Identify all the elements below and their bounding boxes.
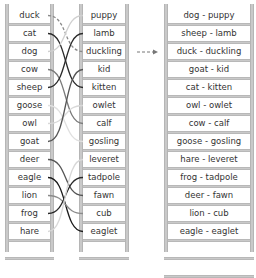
ladder-rung — [79, 257, 129, 260]
link-line — [48, 160, 83, 196]
ladder-rung — [5, 257, 54, 260]
link-line — [48, 16, 83, 52]
arrow-icon — [136, 48, 160, 56]
ladder-rung — [164, 257, 254, 260]
link-line — [48, 34, 83, 88]
